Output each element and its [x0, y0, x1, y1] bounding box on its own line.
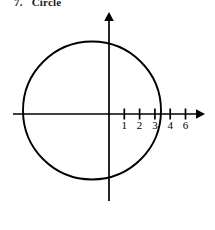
tick-label-3: 3 [152, 119, 158, 131]
y-axis-arrowhead [104, 12, 114, 21]
tick-label-4: 4 [167, 119, 173, 131]
tick-label-6: 6 [183, 119, 189, 131]
tick-label-2: 2 [137, 119, 143, 131]
x-axis-tick-labels: 1 2 3 4 6 [122, 119, 189, 131]
tick-label-1: 1 [122, 119, 128, 131]
x-axis-arrowhead [196, 109, 205, 119]
coordinate-plot: 1 2 3 4 6 [0, 0, 215, 230]
circle-figure: 7.Circle 1 2 3 4 6 [0, 0, 215, 230]
